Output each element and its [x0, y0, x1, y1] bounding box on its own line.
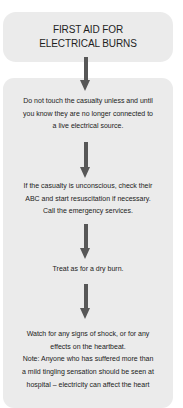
arrow-down-icon	[80, 57, 91, 91]
step-2-line-2: ABC and start resuscitation if necessary…	[0, 193, 176, 206]
step-2-line-3: Call the emergency services.	[0, 205, 176, 218]
step-1-line-1: Do not touch the casualty unless and unt…	[0, 95, 176, 108]
step-1-text: Do not touch the casualty unless and unt…	[0, 95, 176, 133]
arrow-down-icon	[80, 142, 91, 178]
step-4-line-1: Watch for any signs of shock, or for any	[0, 328, 176, 341]
step-3-line-1: Treat as for a dry burn.	[0, 263, 176, 276]
step-1-line-3: a live electrical source.	[0, 120, 176, 133]
flowchart-title-box: FIRST AID FOR ELECTRICAL BURNS	[3, 12, 173, 62]
step-4-line-3: Note: Anyone who has suffered more than	[0, 353, 176, 366]
title-line-1: FIRST AID FOR	[53, 23, 123, 37]
title-line-2: ELECTRICAL BURNS	[39, 37, 137, 51]
step-4-line-5: hospital – electricity can affect the he…	[0, 379, 176, 392]
step-1-line-2: you know they are no longer connected to	[0, 108, 176, 121]
step-4-line-2: effects on the heartbeat.	[0, 341, 176, 354]
step-3-text: Treat as for a dry burn.	[0, 263, 176, 276]
step-2-text: If the casualty is unconscious, check th…	[0, 180, 176, 218]
step-4-text: Watch for any signs of shock, or for any…	[0, 328, 176, 392]
step-2-line-1: If the casualty is unconscious, check th…	[0, 180, 176, 193]
step-4-line-4: a mild tingling sensation should be seen…	[0, 366, 176, 379]
arrow-down-icon	[80, 224, 91, 259]
arrow-down-icon	[80, 284, 91, 319]
